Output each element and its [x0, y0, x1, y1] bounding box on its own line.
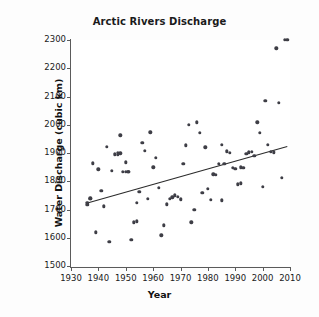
y-axis-tick-label: 2100	[44, 91, 66, 101]
x-axis-tick-label: 2010	[279, 273, 301, 283]
chart-figure: Arctic Rivers Discharge Water Discharge …	[0, 0, 319, 317]
x-axis-tick-label: 2000	[252, 273, 274, 283]
x-axis-tick-mark	[181, 267, 182, 271]
y-axis-tick-mark	[67, 97, 71, 98]
x-axis-tick-mark	[126, 267, 127, 271]
x-axis-tick-label: 1930	[60, 273, 82, 283]
y-axis-tick-label: 2000	[44, 119, 66, 129]
y-axis-tick-label: 2300	[44, 34, 66, 44]
y-axis-tick-label: 1600	[44, 232, 66, 242]
x-axis-tick-label: 1940	[88, 273, 110, 283]
x-axis-tick-mark	[208, 267, 209, 271]
y-axis-tick-mark	[67, 125, 71, 126]
x-axis-tick-mark	[98, 267, 99, 271]
y-axis-tick-label: 2200	[44, 62, 66, 72]
x-axis-tick-mark	[71, 267, 72, 271]
y-axis-tick-mark	[67, 153, 71, 154]
y-axis-tick-label: 1800	[44, 175, 66, 185]
y-axis-tick-label: 1700	[44, 204, 66, 214]
x-axis-tick-mark	[153, 267, 154, 271]
y-axis-tick-mark	[67, 210, 71, 211]
x-axis-tick-label: 1970	[170, 273, 192, 283]
x-axis-tick-mark	[290, 267, 291, 271]
y-axis-tick-mark	[67, 40, 71, 41]
trend-line	[71, 40, 290, 266]
x-axis-label: Year	[0, 289, 319, 300]
y-axis-tick-mark	[67, 238, 71, 239]
y-axis-tick-label: 1900	[44, 147, 66, 157]
x-axis-tick-label: 1950	[115, 273, 137, 283]
chart-title: Arctic Rivers Discharge	[0, 16, 319, 27]
y-axis-tick-mark	[67, 68, 71, 69]
x-axis-tick-label: 1980	[197, 273, 219, 283]
x-axis-tick-mark	[235, 267, 236, 271]
x-axis-tick-mark	[263, 267, 264, 271]
x-axis-tick-label: 1960	[142, 273, 164, 283]
y-axis-tick-label: 1500	[44, 260, 66, 270]
plot-area	[71, 40, 290, 266]
y-axis-tick-mark	[67, 181, 71, 182]
x-axis-tick-label: 1990	[224, 273, 246, 283]
